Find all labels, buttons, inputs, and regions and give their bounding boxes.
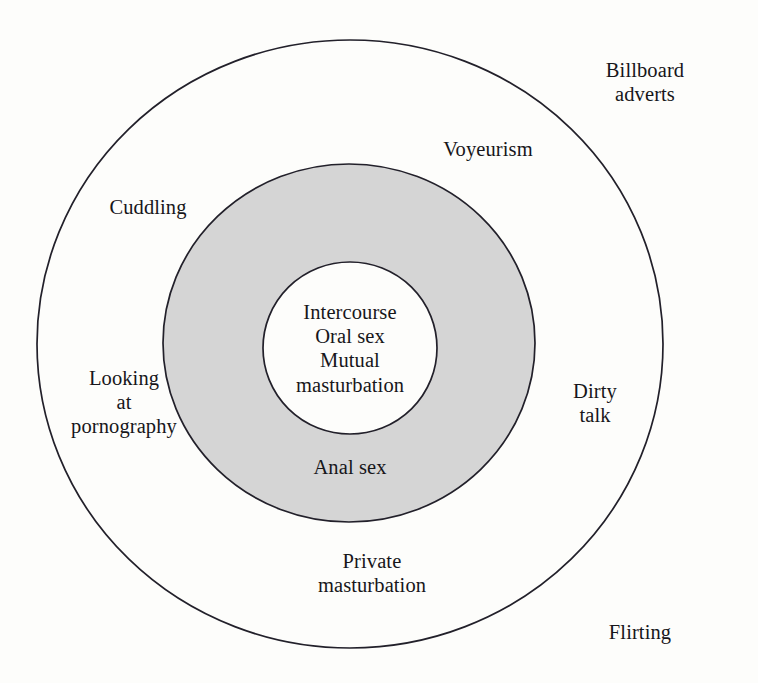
inner-core-label: Intercourse Oral sex Mutual masturbation bbox=[296, 300, 404, 397]
outer-ring-label-pornography: Looking at pornography bbox=[71, 366, 177, 439]
outside-label-flirting: Flirting bbox=[609, 620, 671, 644]
outside-label-billboard-adverts: Billboard adverts bbox=[589, 58, 702, 106]
outer-ring-label-cuddling: Cuddling bbox=[109, 195, 186, 219]
concentric-circles-diagram: Intercourse Oral sex Mutual masturbation… bbox=[0, 0, 758, 683]
middle-ring-label: Anal sex bbox=[313, 455, 386, 479]
outer-ring-label-private-masturbation: Private masturbation bbox=[318, 549, 426, 597]
outside-label-voyeurism: Voyeurism bbox=[443, 137, 532, 161]
outer-ring-label-dirty-talk: Dirty talk bbox=[573, 379, 617, 427]
